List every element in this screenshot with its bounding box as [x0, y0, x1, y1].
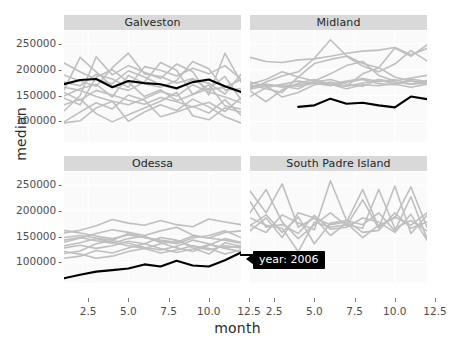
- x-tick-label: 12.5: [418, 305, 452, 317]
- y-tick-label: 100000-: [0, 255, 62, 267]
- panel-odessa: [64, 172, 241, 283]
- panel-strip-south-padre-island: South Padre Island: [250, 156, 427, 171]
- series-line-highlight[interactable]: [298, 97, 427, 108]
- panel-title: South Padre Island: [286, 157, 390, 170]
- y-tick-label: 100000-: [0, 114, 62, 126]
- series-line-background: [64, 99, 241, 123]
- y-tick-mark: -: [56, 178, 62, 190]
- y-tick-mark: -: [56, 89, 62, 101]
- x-tick-label: 10.0: [192, 305, 226, 317]
- x-tick-mark: [395, 298, 396, 302]
- x-tick-mark: [274, 298, 275, 302]
- panel-canvas: [64, 31, 241, 142]
- x-tick-label: 10.0: [378, 305, 412, 317]
- series-line-background: [250, 190, 427, 238]
- y-tick-label: 250000-: [0, 37, 62, 49]
- series-line-background: [64, 92, 241, 121]
- panel-title: Midland: [317, 16, 361, 29]
- y-tick-label: 150000-: [0, 230, 62, 242]
- x-tick-mark: [128, 298, 129, 302]
- y-tick-mark: -: [56, 230, 62, 242]
- x-tick-label: 2.5: [257, 305, 291, 317]
- y-tick-mark: -: [56, 204, 62, 216]
- y-tick-mark: -: [56, 37, 62, 49]
- x-tick-mark: [355, 298, 356, 302]
- panel-strip-midland: Midland: [250, 15, 427, 30]
- x-tick-label: 7.5: [152, 305, 186, 317]
- chart-root: median month 100000-150000-200000-250000…: [0, 0, 475, 340]
- x-tick-mark: [209, 298, 210, 302]
- x-tick-mark: [435, 298, 436, 302]
- x-tick-label: 5.0: [111, 305, 145, 317]
- x-tick-label: 5.0: [297, 305, 331, 317]
- x-tick-label: 7.5: [338, 305, 372, 317]
- panel-strip-odessa: Odessa: [64, 156, 241, 171]
- x-tick-mark: [88, 298, 89, 302]
- y-tick-label: 200000-: [0, 204, 62, 216]
- panel-strip-galveston: Galveston: [64, 15, 241, 30]
- x-axis-title: month: [0, 320, 475, 336]
- y-tick-mark: -: [56, 255, 62, 267]
- y-tick-label: 150000-: [0, 89, 62, 101]
- series-line-background: [64, 219, 241, 233]
- panel-title: Galveston: [124, 16, 180, 29]
- panel-canvas: [64, 172, 241, 283]
- x-tick-mark: [169, 298, 170, 302]
- panel-midland: [250, 31, 427, 142]
- y-tick-label: 200000-: [0, 63, 62, 75]
- panel-canvas: [250, 31, 427, 142]
- tooltip-year-2006[interactable]: year: 2006: [253, 251, 325, 270]
- panel-title: Odessa: [132, 157, 173, 170]
- x-tick-mark: [249, 298, 250, 302]
- y-tick-label: 250000-: [0, 178, 62, 190]
- x-tick-label: 2.5: [71, 305, 105, 317]
- y-tick-mark: -: [56, 114, 62, 126]
- y-tick-mark: -: [56, 63, 62, 75]
- y-axis-title: median: [13, 89, 29, 179]
- x-tick-mark: [314, 298, 315, 302]
- panel-galveston: [64, 31, 241, 142]
